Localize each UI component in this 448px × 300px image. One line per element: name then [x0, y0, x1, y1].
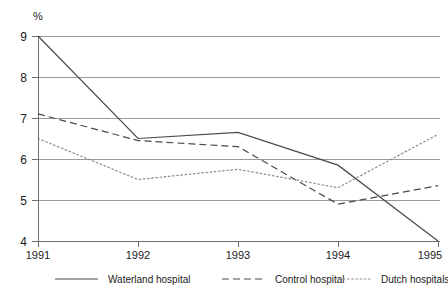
y-axis-unit-label: %: [33, 10, 43, 22]
y-tick-label-6: 6: [20, 153, 27, 167]
gridlines: [38, 36, 440, 241]
legend-label-control-hospital: Control hospital: [275, 274, 344, 285]
x-tickmarks: [38, 241, 438, 247]
x-tick-labels: 1991 1992 1993 1994 1995: [26, 249, 442, 261]
x-tick-label-1993: 1993: [226, 249, 250, 261]
y-tick-label-5: 5: [20, 194, 27, 208]
legend-item-dutch-hospitals[interactable]: Dutch hospitals: [335, 274, 448, 285]
x-tick-label-1992: 1992: [126, 249, 150, 261]
y-tick-labels: 9 8 7 6 5 4: [20, 30, 27, 249]
line-chart: % 9 8 7 6 5 4: [0, 0, 448, 300]
data-series-group: [38, 36, 438, 241]
y-tick-label-7: 7: [20, 112, 27, 126]
chart-canvas: % 9 8 7 6 5 4: [0, 0, 448, 300]
y-tick-label-4: 4: [20, 235, 27, 249]
x-tick-label-1994: 1994: [326, 249, 350, 261]
y-tickmarks: [32, 36, 38, 241]
legend-label-waterland-hospital: Waterland hospital: [108, 274, 190, 285]
legend-item-control-hospital[interactable]: Control hospital: [222, 274, 344, 285]
y-tick-label-8: 8: [20, 71, 27, 85]
y-tick-label-9: 9: [20, 30, 27, 44]
x-tick-label-1991: 1991: [26, 249, 50, 261]
legend-label-dutch-hospitals: Dutch hospitals: [381, 274, 448, 285]
chart-legend: Waterland hospital Control hospital Dutc…: [55, 274, 448, 285]
legend-item-waterland-hospital[interactable]: Waterland hospital: [55, 274, 190, 285]
x-tick-label-1995: 1995: [418, 249, 442, 261]
series-line-dutch-hospitals: [38, 134, 438, 187]
series-line-waterland-hospital: [38, 36, 438, 241]
